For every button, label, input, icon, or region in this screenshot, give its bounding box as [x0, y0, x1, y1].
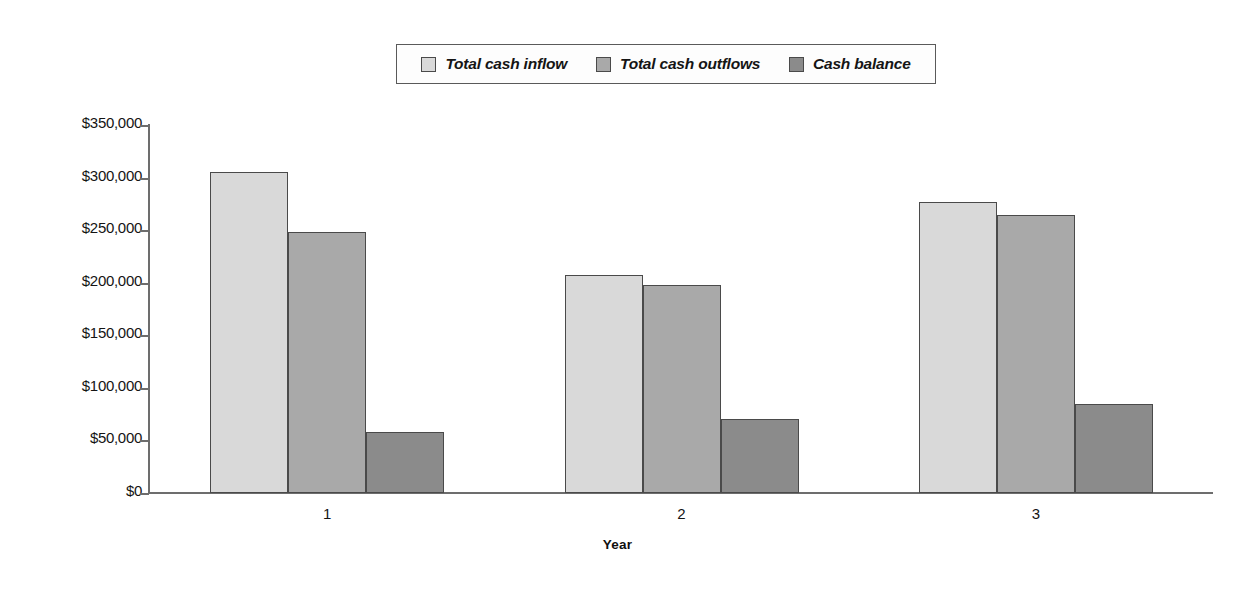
- x-axis-tick-label: 1: [267, 505, 387, 522]
- x-axis-title: Year: [0, 537, 1235, 552]
- bar-1-total-cash-inflow: [210, 172, 288, 493]
- bar-1-total-cash-outflows: [288, 232, 366, 493]
- bar-3-total-cash-outflows: [997, 215, 1075, 493]
- bar-3-cash-balance: [1075, 404, 1153, 493]
- bar-3-total-cash-inflow: [919, 202, 997, 493]
- bar-2-cash-balance: [721, 419, 799, 493]
- bar-2-total-cash-outflows: [643, 285, 721, 493]
- x-axis-tick-label: 3: [976, 505, 1096, 522]
- bar-2-total-cash-inflow: [565, 275, 643, 493]
- x-axis-tick-label: 2: [622, 505, 742, 522]
- bar-chart: Total cash inflow Total cash outflows Ca…: [0, 0, 1235, 595]
- bar-1-cash-balance: [366, 432, 444, 493]
